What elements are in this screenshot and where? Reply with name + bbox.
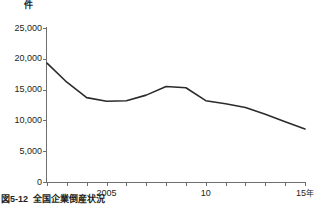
series-line-倒産件数 <box>47 63 305 129</box>
figure-caption: 図5-12全国企業倒産状況 <box>1 194 105 205</box>
figure-caption-number: 図5-12 <box>1 194 28 204</box>
figure-caption-title: 全国企業倒産状況 <box>33 194 105 204</box>
figure-container: 件 05,00010,00015,00020,00025,000 2005101… <box>0 0 323 205</box>
chart-plot-area <box>0 0 323 205</box>
